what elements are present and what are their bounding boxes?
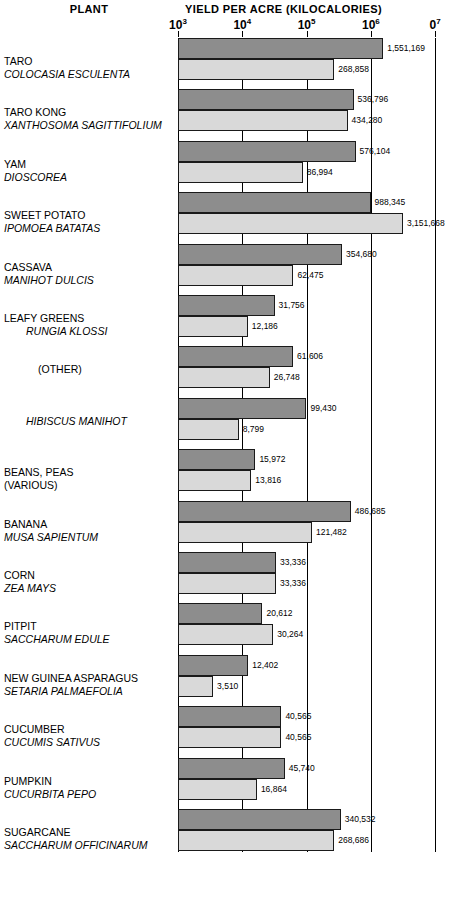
bar-value-label: 40,565 <box>281 706 311 727</box>
row-label-group: CASSAVAMANIHOT DULCIS <box>4 261 176 287</box>
bar-dark <box>178 38 383 59</box>
plant-scientific-name: CUCURBITA PEPO <box>4 788 176 801</box>
bar-light <box>178 727 281 748</box>
row-label-group: CUCUMBERCUCUMIS SATIVUS <box>4 723 176 749</box>
plant-scientific-name: IPOMOEA BATATAS <box>4 222 176 235</box>
chart-row: NEW GUINEA ASPARAGUSSETARIA PALMAEFOLIA1… <box>0 655 452 706</box>
chart-row: LEAFY GREENSRUNGIA KLOSSI31,75612,186 <box>0 295 452 346</box>
bar-dark <box>178 655 248 676</box>
bar-light <box>178 367 270 388</box>
bar-dark <box>178 89 354 110</box>
row-label-group: (OTHER) <box>4 363 176 376</box>
plant-common-name: BANANA <box>4 518 176 531</box>
plant-common-name: TARO KONG <box>4 106 176 119</box>
bar-value-label: 268,858 <box>334 59 369 80</box>
plant-scientific-name: MUSA SAPIENTUM <box>4 531 176 544</box>
chart-row: SUGARCANESACCHARUM OFFICINARUM340,532268… <box>0 809 452 860</box>
bar-value-label: 33,336 <box>276 552 306 573</box>
axis-tick-label-10000: 104 <box>233 17 251 32</box>
plant-common-name: NEW GUINEA ASPARAGUS <box>4 672 176 685</box>
plant-common-name: YAM <box>4 158 176 171</box>
plant-common-name: (OTHER) <box>4 363 176 376</box>
bar-value-label: 434,280 <box>348 110 383 131</box>
bar-value-label: 26,748 <box>270 367 300 388</box>
bar-value-label: 40,565 <box>281 727 311 748</box>
bar-value-label: 12,402 <box>248 655 278 676</box>
bar-dark <box>178 758 285 779</box>
plant-scientific-name: SACCHARUM OFFICINARUM <box>4 839 176 852</box>
bar-light <box>178 419 239 440</box>
axis-tick-mark <box>242 31 243 37</box>
axis-tick-mark <box>371 31 372 37</box>
bar-value-label: 31,756 <box>275 295 305 316</box>
row-label-group: NEW GUINEA ASPARAGUSSETARIA PALMAEFOLIA <box>4 672 176 698</box>
row-label-group: TARO KONGXANTHOSOMA SAGITTIFOLIUM <box>4 106 176 132</box>
bar-value-label: 3,151,668 <box>403 213 445 234</box>
bar-value-label: 340,532 <box>341 809 376 830</box>
bar-value-label: 33,336 <box>276 573 306 594</box>
bar-value-label: 268,686 <box>334 830 369 851</box>
bar-value-label: 8,799 <box>239 419 264 440</box>
bar-value-label: 99,430 <box>306 398 336 419</box>
plant-common-name: PITPIT <box>4 620 176 633</box>
bar-light <box>178 470 251 491</box>
bar-light <box>178 779 257 800</box>
bar-dark <box>178 552 276 573</box>
bar-dark <box>178 398 306 419</box>
plant-common-name: CORN <box>4 569 176 582</box>
bar-value-label: 62,475 <box>293 265 323 286</box>
plant-common-name: CASSAVA <box>4 261 176 274</box>
chart-row: CUCUMBERCUCUMIS SATIVUS40,56540,565 <box>0 706 452 757</box>
plant-scientific-name: (VARIOUS) <box>4 479 176 492</box>
row-label-group: PITPITSACCHARUM EDULE <box>4 620 176 646</box>
chart-row: TARO KONGXANTHOSOMA SAGITTIFOLIUM536,796… <box>0 89 452 140</box>
bar-value-label: 3,510 <box>213 676 238 697</box>
bar-dark <box>178 141 356 162</box>
axis-tick-mark <box>178 31 179 37</box>
chart-row: BANANAMUSA SAPIENTUM486,685121,482 <box>0 501 452 552</box>
row-label-group: SUGARCANESACCHARUM OFFICINARUM <box>4 826 176 852</box>
bar-value-label: 12,186 <box>248 316 278 337</box>
bar-value-label: 486,685 <box>351 501 386 522</box>
row-label-group: SWEET POTATOIPOMOEA BATATAS <box>4 209 176 235</box>
bar-dark <box>178 706 281 727</box>
bar-light <box>178 110 348 131</box>
bar-dark <box>178 603 262 624</box>
bar-dark <box>178 501 351 522</box>
bar-value-label: 20,612 <box>262 603 292 624</box>
plant-scientific-name: COLOCASIA ESCULENTA <box>4 68 176 81</box>
plant-scientific-name: SACCHARUM EDULE <box>4 633 176 646</box>
bar-dark <box>178 449 255 470</box>
bar-value-label: 121,482 <box>312 522 347 543</box>
chart-row: YAMDIOSCOREA576,10486,994 <box>0 141 452 192</box>
row-label-group: BEANS, PEAS(VARIOUS) <box>4 466 176 492</box>
axis-tick-mark <box>435 31 436 37</box>
bar-value-label: 536,796 <box>354 89 389 110</box>
bar-value-label: 13,816 <box>251 470 281 491</box>
bar-light <box>178 624 273 645</box>
bar-value-label: 61,606 <box>293 346 323 367</box>
plant-scientific-name: CUCUMIS SATIVUS <box>4 736 176 749</box>
bar-value-label: 16,864 <box>257 779 287 800</box>
chart-row: SWEET POTATOIPOMOEA BATATAS988,3453,151,… <box>0 192 452 243</box>
chart-row: HIBISCUS MANIHOT99,4308,799 <box>0 398 452 449</box>
bar-dark <box>178 346 293 367</box>
bar-dark <box>178 192 371 213</box>
row-label-group: HIBISCUS MANIHOT <box>4 415 176 428</box>
row-label-group: PUMPKINCUCURBITA PEPO <box>4 775 176 801</box>
plant-scientific-name: MANIHOT DULCIS <box>4 274 176 287</box>
bar-light <box>178 59 334 80</box>
chart-row: TAROCOLOCASIA ESCULENTA1,551,169268,858 <box>0 38 452 89</box>
bar-dark <box>178 244 342 265</box>
row-label-group: LEAFY GREENSRUNGIA KLOSSI <box>4 312 176 338</box>
bar-light <box>178 162 303 183</box>
chart-row: (OTHER)61,60626,748 <box>0 346 452 397</box>
chart-row: CORNZEA MAYS33,33633,336 <box>0 552 452 603</box>
plot-area: TAROCOLOCASIA ESCULENTA1,551,169268,858T… <box>0 38 452 910</box>
bar-light <box>178 316 248 337</box>
axis-tick-mark <box>307 31 308 37</box>
plant-common-name: SWEET POTATO <box>4 209 176 222</box>
chart-row: BEANS, PEAS(VARIOUS)15,97213,816 <box>0 449 452 500</box>
plant-scientific-name: XANTHOSOMA SAGITTIFOLIUM <box>4 119 176 132</box>
bar-light <box>178 213 403 234</box>
